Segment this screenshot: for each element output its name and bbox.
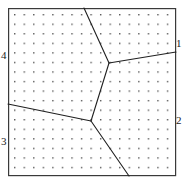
dot-grid: [9, 9, 176, 176]
region-label-2: 2: [176, 115, 182, 126]
region-label-4: 4: [1, 50, 7, 61]
region-label-1: 1: [176, 38, 182, 49]
region-label-3: 3: [1, 136, 7, 147]
diagram-canvas: [0, 0, 186, 185]
voronoi-partition-figure: 1 2 3 4: [0, 0, 186, 185]
